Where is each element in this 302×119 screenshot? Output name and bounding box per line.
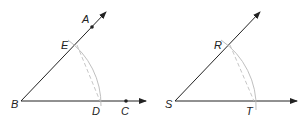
point-a — [90, 25, 94, 29]
label-r: R — [214, 39, 222, 51]
label-d: D — [92, 105, 100, 117]
construction-arc-right — [221, 40, 256, 110]
figure-right: R S T — [165, 12, 297, 117]
dashed-segment-ed — [77, 45, 100, 101]
label-e: E — [61, 39, 69, 51]
label-a: A — [81, 13, 89, 25]
figure-left: A E B D C — [11, 12, 146, 117]
label-s: S — [165, 98, 173, 110]
label-t: T — [246, 105, 254, 117]
angle-construction-diagram: A E B D C R S T — [0, 0, 302, 119]
label-b: B — [11, 98, 18, 110]
dashed-segment-rt — [230, 45, 254, 101]
construction-arc-left — [68, 40, 101, 106]
ray-sr — [175, 12, 260, 101]
point-c — [124, 99, 128, 103]
ray-ba — [21, 12, 106, 101]
label-c: C — [121, 105, 129, 117]
